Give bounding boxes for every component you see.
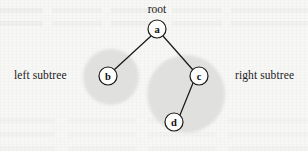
right-subtree-caption: right subtree [235,69,294,81]
tree-node-d[interactable]: d [165,113,183,131]
subtree-halos [83,49,225,133]
tree-node-c[interactable]: c [190,67,208,85]
node-b-label: b [105,71,111,82]
right-subtree-halo [147,55,225,133]
left-subtree-caption: left subtree [14,69,67,81]
tree-diagram-figure: a b c d root left subtree right subtree [0,0,308,151]
tree-node-b[interactable]: b [99,67,117,85]
node-c-label: c [197,71,202,82]
node-d-label: d [171,117,177,128]
node-a-label: a [154,24,160,35]
tree-node-a[interactable]: a [148,20,166,38]
root-caption: root [148,3,167,15]
